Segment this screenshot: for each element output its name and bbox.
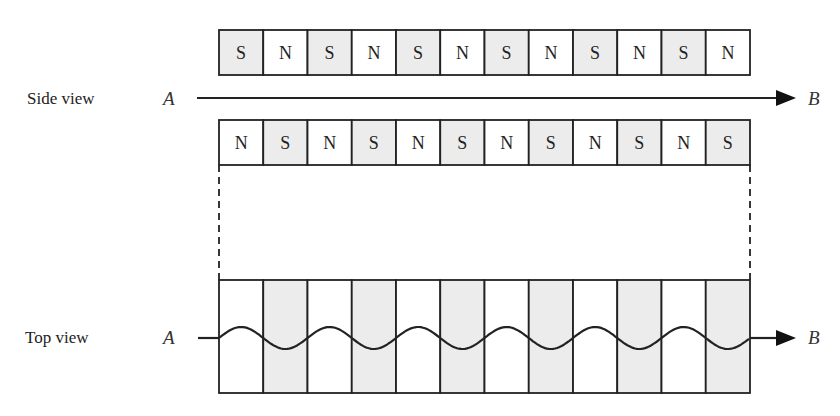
magnet-cell-n: N [308,120,352,165]
pole-label: S [590,43,600,63]
top-view-column [263,280,307,393]
pole-label: N [235,133,248,153]
arrowhead-icon [776,330,796,346]
pole-label: S [236,43,246,63]
upper-magnet-row: SNSNSNSNSNSN [219,30,750,75]
magnet-cell-s: S [529,120,573,165]
top-view-column [485,280,529,393]
pole-label: S [413,43,423,63]
magnet-cell-n: N [573,120,617,165]
magnet-cell-n: N [396,120,440,165]
pole-label: N [279,43,292,63]
side-view-arrow [197,90,796,106]
pole-label: N [323,133,336,153]
magnet-cell-s: S [308,30,352,75]
top-view-column [352,280,396,393]
pole-label: S [325,43,335,63]
top-view-start-label: A [161,327,175,348]
pole-label: N [412,133,425,153]
magnet-cell-n: N [485,120,529,165]
magnet-cell-s: S [706,120,750,165]
top-view-column [573,280,617,393]
pole-label: N [367,43,380,63]
pole-label: N [589,133,602,153]
magnet-cell-s: S [263,120,307,165]
pole-label: S [634,133,644,153]
top-view-column [706,280,750,393]
top-view-magnet-array [219,280,750,393]
top-view-column [440,280,484,393]
magnet-cell-s: S [617,120,661,165]
top-view-column [396,280,440,393]
top-view-end-label: B [808,327,820,348]
top-view-column [529,280,573,393]
magnet-cell-n: N [263,30,307,75]
pole-label: S [369,133,379,153]
magnet-cell-n: N [662,120,706,165]
pole-label: S [679,43,689,63]
magnet-cell-s: S [662,30,706,75]
pole-label: S [457,133,467,153]
magnet-cell-n: N [617,30,661,75]
magnet-cell-n: N [529,30,573,75]
pole-label: N [544,43,557,63]
pole-label: N [633,43,646,63]
magnet-cell-n: N [440,30,484,75]
pole-label: N [500,133,513,153]
top-view-column [219,280,263,393]
pole-label: S [723,133,733,153]
pole-label: N [456,43,469,63]
magnet-cell-s: S [573,30,617,75]
magnet-cell-s: S [219,30,263,75]
magnet-cell-n: N [352,30,396,75]
top-view-label: Top view [25,328,89,347]
top-view-column [617,280,661,393]
pole-label: S [280,133,290,153]
pole-label: N [721,43,734,63]
magnet-cell-s: S [352,120,396,165]
pole-label: S [546,133,556,153]
magnet-cell-s: S [485,30,529,75]
magnet-cell-s: S [440,120,484,165]
side-view-start-label: A [161,88,175,109]
magnet-cell-n: N [706,30,750,75]
magnet-cell-s: S [396,30,440,75]
side-view-end-label: B [808,88,820,109]
magnet-array-diagram: Side view A B SNSNSNSNSNSN NSNSNSNSNSNS … [0,0,840,416]
pole-label: N [677,133,690,153]
magnet-cell-n: N [219,120,263,165]
side-view-label: Side view [27,89,95,108]
top-view-column [308,280,352,393]
lower-magnet-row: NSNSNSNSNSNS [219,120,750,165]
arrowhead-icon [776,90,796,106]
pole-label: S [502,43,512,63]
top-view-column [662,280,706,393]
